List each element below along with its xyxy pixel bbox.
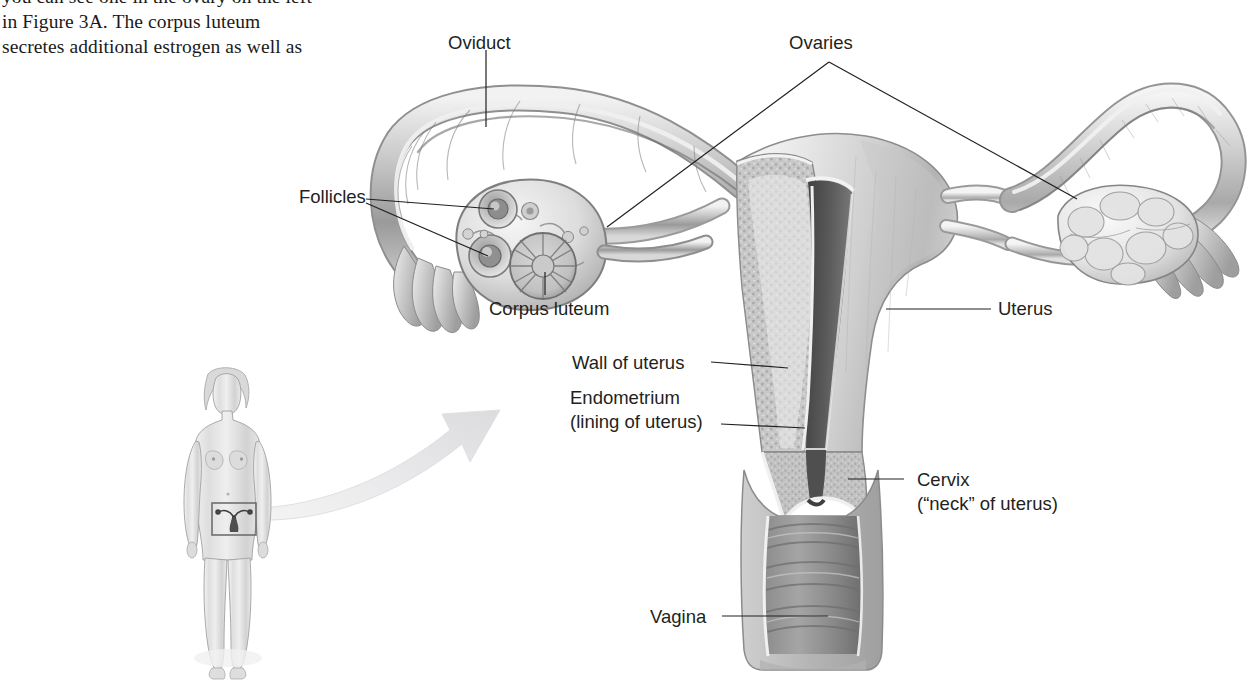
left-fimbriae	[394, 246, 480, 333]
figure-page: you can see one in the ovary on the left…	[0, 0, 1251, 684]
leader-endometrium	[721, 424, 805, 428]
cervix-illustration	[762, 450, 867, 520]
pelvic-highlight-box	[212, 503, 256, 535]
leader-ovaries-right	[829, 62, 1077, 199]
leader-wall-of-uterus	[711, 362, 788, 368]
follicle-lower	[469, 235, 511, 277]
body-text-line-3: secretes additional estrogen as well as	[2, 34, 362, 59]
label-corpus-luteum: Corpus luteum	[489, 297, 609, 320]
body-text-column: you can see one in the ovary on the left…	[2, 0, 362, 59]
label-oviduct: Oviduct	[448, 31, 511, 54]
label-follicles: Follicles	[299, 185, 366, 208]
label-cervix: Cervix (“neck” of uterus)	[917, 468, 1097, 515]
label-uterus: Uterus	[998, 297, 1053, 320]
label-wall-of-uterus: Wall of uterus	[572, 351, 684, 374]
label-endometrium-line2: (lining of uterus)	[570, 410, 730, 434]
vagina-illustration	[741, 470, 883, 670]
follicle-upper	[479, 190, 517, 228]
label-cervix-line1: Cervix	[917, 468, 1097, 492]
label-vagina: Vagina	[650, 605, 706, 628]
label-endometrium-line1: Endometrium	[570, 386, 730, 410]
anatomy-illustration	[0, 0, 1251, 684]
leader-lines	[366, 50, 1077, 616]
left-ovary-illustration	[456, 180, 706, 311]
right-ovary-illustration	[1058, 185, 1198, 285]
leader-follicles-lower	[366, 203, 488, 256]
body-text-line-2: in Figure 3A. The corpus luteum	[2, 9, 362, 34]
leader-follicles-upper	[366, 199, 494, 209]
right-oviduct-illustration	[1012, 89, 1239, 298]
label-endometrium: Endometrium (lining of uterus)	[570, 386, 730, 433]
inset-reproductive-organs	[216, 510, 252, 531]
corpus-luteum-structure	[510, 233, 576, 299]
right-fimbriae	[1140, 214, 1239, 299]
uterus-illustration	[737, 134, 1012, 452]
label-ovaries: Ovaries	[789, 31, 853, 54]
magnification-arrow	[258, 410, 500, 520]
body-text-line-1: you can see one in the ovary on the left	[2, 0, 362, 9]
leader-ovaries-left	[607, 62, 829, 227]
body-inset-figure	[184, 368, 271, 679]
label-cervix-line2: (“neck” of uterus)	[917, 492, 1097, 516]
